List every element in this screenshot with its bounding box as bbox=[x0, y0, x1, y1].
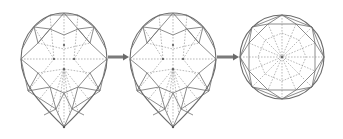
round-brilliant-cut bbox=[240, 15, 324, 99]
pear-cut-1 bbox=[21, 13, 107, 128]
arrow-1 bbox=[108, 54, 129, 61]
pear-cut-2 bbox=[130, 13, 216, 128]
arrow-2 bbox=[217, 54, 239, 61]
gem-cut-diagram bbox=[0, 0, 343, 139]
